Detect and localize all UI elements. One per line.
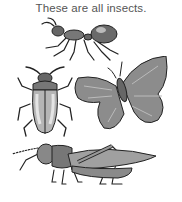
grasshopper-icon <box>8 140 158 192</box>
caption: These are all insects. <box>0 2 182 14</box>
butterfly-icon <box>72 56 172 134</box>
beetle-icon <box>14 64 76 140</box>
